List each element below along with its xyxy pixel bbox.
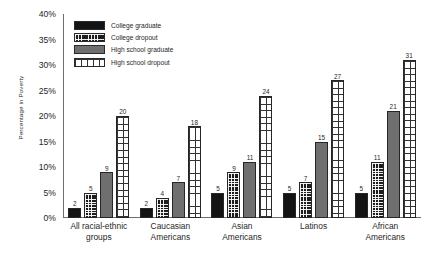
bar-value-label: 5 <box>288 185 292 192</box>
legend-item: High school graduate <box>74 45 173 54</box>
bar <box>331 80 344 218</box>
bar <box>68 208 81 218</box>
legend-item: College graduate <box>74 21 173 30</box>
bar-value-label: 24 <box>262 88 269 95</box>
bar-column: 11 <box>371 14 384 218</box>
bar-value-label: 4 <box>161 190 165 197</box>
bar-value-label: 9 <box>232 165 236 172</box>
bar <box>172 182 185 218</box>
y-tick-label: 10% <box>39 162 56 172</box>
legend-swatch-icon <box>74 45 105 54</box>
bar-column: 7 <box>172 14 185 218</box>
bar-value-label: 5 <box>216 185 220 192</box>
bar-value-label: 21 <box>390 103 397 110</box>
bar-value-label: 27 <box>334 73 341 80</box>
bar-value-label: 7 <box>177 175 181 182</box>
bar <box>227 172 240 218</box>
bar-group: 591124 <box>206 14 278 218</box>
bar <box>243 162 256 218</box>
y-tick-label: 0% <box>44 213 56 223</box>
poverty-by-education-bar-chart: Percentage in Poverty 40% 35% 30% 25% 20… <box>0 0 428 272</box>
bar-group: 5112131 <box>349 14 421 218</box>
y-tick-label: 20% <box>39 111 56 121</box>
bar-value-label: 15 <box>318 134 325 141</box>
bar-group: 571527 <box>278 14 350 218</box>
bar-column: 5 <box>211 14 224 218</box>
y-tick-label: 15% <box>39 137 56 147</box>
bar <box>84 193 97 219</box>
bar <box>283 193 296 219</box>
bar <box>299 182 312 218</box>
bar-value-label: 20 <box>119 108 126 115</box>
legend-item: College dropout <box>74 33 173 42</box>
bar-value-label: 2 <box>145 200 149 207</box>
bar-value-label: 31 <box>406 52 413 59</box>
bar-value-label: 9 <box>105 165 109 172</box>
bar-column: 24 <box>259 14 272 218</box>
y-tick-label: 25% <box>39 86 56 96</box>
bar-column: 18 <box>188 14 201 218</box>
bar-value-label: 7 <box>304 175 308 182</box>
y-axis-tick-labels: 40% 35% 30% 25% 20% 15% 10% 5% 0% <box>0 14 60 218</box>
bar <box>211 193 224 219</box>
bar <box>140 208 153 218</box>
bar <box>315 142 328 219</box>
bar-column: 21 <box>387 14 400 218</box>
bar <box>403 60 416 218</box>
bar-column: 31 <box>403 14 416 218</box>
bar-value-label: 2 <box>73 200 77 207</box>
bar <box>116 116 129 218</box>
legend-swatch-icon <box>74 58 105 67</box>
bar-column: 27 <box>331 14 344 218</box>
x-axis-label: Latinos <box>278 221 350 243</box>
y-tick-label: 30% <box>39 60 56 70</box>
bar-column: 9 <box>227 14 240 218</box>
legend-swatch-icon <box>74 21 105 30</box>
x-axis-category-labels: All racial-ethnic groupsCaucasian Americ… <box>63 221 421 243</box>
bar <box>100 172 113 218</box>
x-axis-label: All racial-ethnic groups <box>63 221 135 243</box>
bar <box>156 198 169 218</box>
bar-value-label: 5 <box>359 185 363 192</box>
bar-column: 15 <box>315 14 328 218</box>
y-tick-label: 5% <box>44 188 56 198</box>
y-tick-label: 40% <box>39 9 56 19</box>
legend-item-label: High school dropout <box>111 58 170 67</box>
legend-item-label: College dropout <box>111 33 158 42</box>
chart-legend: College graduate College dropout High sc… <box>74 21 173 67</box>
bar-value-label: 11 <box>247 154 254 161</box>
legend-item-label: College graduate <box>111 21 161 30</box>
y-tick-label: 35% <box>39 35 56 45</box>
legend-item: High school dropout <box>74 58 173 67</box>
bar <box>355 193 368 219</box>
bar-column: 5 <box>283 14 296 218</box>
bar <box>371 162 384 218</box>
bar-column: 11 <box>243 14 256 218</box>
bar <box>387 111 400 218</box>
bar-column: 5 <box>355 14 368 218</box>
bar <box>259 96 272 218</box>
bar-value-label: 5 <box>89 185 93 192</box>
x-axis-label: Asian Americans <box>206 221 278 243</box>
bar-value-label: 11 <box>374 154 381 161</box>
bar-value-label: 18 <box>191 119 198 126</box>
x-axis-label: African Americans <box>349 221 421 243</box>
bar <box>188 126 201 218</box>
x-axis-label: Caucasian Americans <box>135 221 207 243</box>
legend-swatch-icon <box>74 33 105 42</box>
legend-item-label: High school graduate <box>111 45 173 54</box>
bar-column: 7 <box>299 14 312 218</box>
